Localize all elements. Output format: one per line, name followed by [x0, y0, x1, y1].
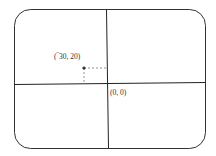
coordinate-plane-diagram: (‾30, 20) (0, 0) [0, 0, 216, 156]
y-axis [107, 10, 109, 149]
plotted-point [82, 66, 85, 69]
x-axis [15, 83, 206, 85]
point-label: (‾30, 20) [54, 52, 81, 61]
origin-label: (0, 0) [110, 88, 127, 97]
frame [15, 10, 206, 149]
